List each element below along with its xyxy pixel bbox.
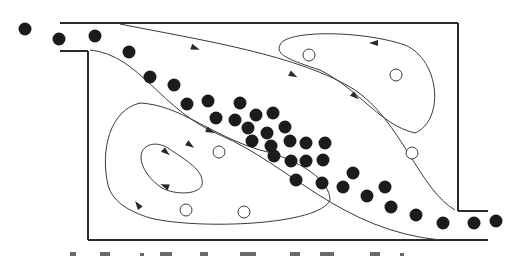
arrowhead-icon (133, 199, 143, 210)
arrowhead-icon (185, 140, 196, 150)
particle (337, 181, 350, 194)
caption-fragments (70, 252, 404, 256)
particle (319, 137, 332, 150)
particle (279, 121, 292, 134)
particle (490, 215, 503, 228)
streamline-upper-right-vortex (279, 34, 435, 133)
particle (168, 79, 181, 92)
flow-diagram (0, 0, 521, 256)
bubble (390, 69, 402, 81)
arrowhead-icon (161, 147, 172, 157)
particle (379, 181, 392, 194)
particle (210, 112, 223, 125)
arrowhead-icon (288, 70, 299, 80)
particle (181, 98, 194, 111)
particle (290, 174, 303, 187)
particle (202, 95, 215, 108)
particle (267, 107, 280, 120)
particle (317, 154, 330, 167)
particle (284, 135, 297, 148)
particle (229, 114, 242, 127)
particle (246, 135, 259, 148)
particle (385, 201, 398, 214)
streamline-lower-left-inner-vortex (141, 144, 202, 193)
particle (300, 137, 313, 150)
bubble (180, 204, 192, 216)
streamline-upper-main (120, 24, 455, 210)
particle (242, 122, 255, 135)
particle (268, 150, 281, 163)
arrowhead-icon (190, 44, 201, 53)
bubble (213, 146, 225, 158)
bubble (303, 49, 315, 61)
particle (250, 109, 263, 122)
particle (347, 167, 360, 180)
particle (468, 217, 481, 230)
particle (300, 155, 313, 168)
bubble (238, 206, 250, 218)
particle (234, 97, 247, 110)
particle (144, 71, 157, 84)
particle (53, 33, 66, 46)
particle (437, 217, 450, 230)
particle (361, 190, 374, 203)
particle (410, 209, 423, 222)
particle (316, 177, 329, 190)
particle (19, 23, 32, 36)
particle (89, 30, 102, 43)
particle (123, 46, 136, 59)
particle (285, 155, 298, 168)
particle (261, 127, 274, 140)
bubble (406, 147, 418, 159)
arrowhead-icon (369, 40, 378, 46)
